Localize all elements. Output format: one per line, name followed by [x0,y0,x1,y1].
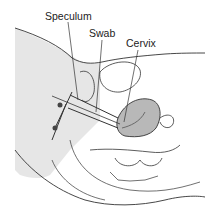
thigh-inner-curve [52,160,105,200]
speculum-screw-1 [58,103,63,108]
sacrum [110,172,158,181]
bladder [100,62,141,92]
diagram-canvas: Speculum Swab Cervix [0,0,213,217]
ovary [160,115,174,128]
rectum [90,145,180,153]
label-speculum: Speculum [45,11,92,22]
inner-curve-2 [70,140,200,191]
label-cervix: Cervix [126,38,156,49]
uterus [117,99,160,137]
label-swab: Swab [89,28,115,39]
speculum-screw-2 [53,126,58,131]
bowel-loops [115,158,162,166]
